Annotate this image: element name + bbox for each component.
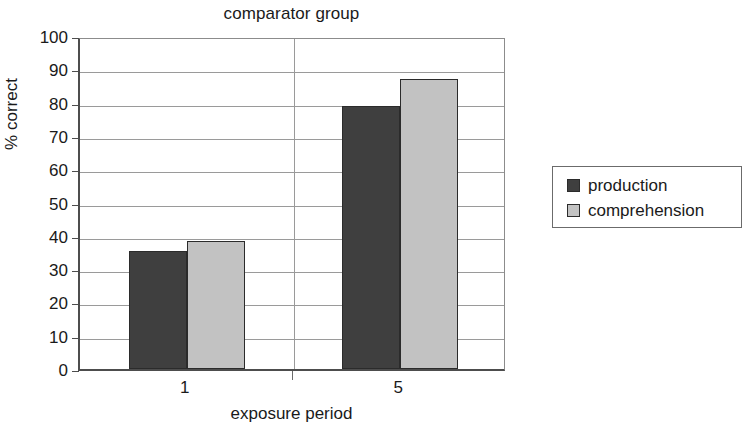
y-axis-tick-mark: [72, 238, 79, 239]
y-axis-tick-label: 70: [0, 129, 68, 146]
chart-title: comparator group: [78, 4, 505, 24]
y-axis-tick-mark: [72, 338, 79, 339]
y-axis-tick-label: 100: [0, 29, 68, 46]
y-axis-tick-mark: [72, 38, 79, 39]
y-axis-tick-mark: [72, 71, 79, 72]
bar-comprehension-5: [400, 79, 458, 369]
x-axis-tick-label: 1: [155, 378, 215, 398]
legend-swatch-comprehension-icon: [567, 204, 580, 217]
category-separator: [294, 39, 295, 369]
bar-production-1: [129, 251, 187, 369]
y-axis-tick-mark: [72, 271, 79, 272]
y-axis-tick-label: 60: [0, 162, 68, 179]
y-axis-tick-label: 10: [0, 329, 68, 346]
legend-label-comprehension: comprehension: [588, 202, 704, 219]
legend-swatch-production-icon: [567, 179, 580, 192]
y-axis-tick-mark: [72, 304, 79, 305]
y-axis-tick-label: 50: [0, 196, 68, 213]
y-axis-tick-label: 90: [0, 62, 68, 79]
x-axis-label: exposure period: [78, 404, 505, 424]
legend: production comprehension: [552, 166, 742, 228]
legend-label-production: production: [588, 177, 667, 194]
y-axis-tick-mark: [72, 138, 79, 139]
y-axis-tick-label: 80: [0, 96, 68, 113]
gridline: [80, 72, 504, 73]
legend-item-comprehension: comprehension: [567, 198, 741, 223]
bar-production-5: [342, 106, 400, 369]
y-axis-tick-mark: [72, 205, 79, 206]
y-axis-tick-mark: [72, 171, 79, 172]
x-axis-tick-label: 5: [368, 378, 428, 398]
plot-area: [78, 38, 505, 371]
y-axis-tick-label: 0: [0, 362, 68, 379]
legend-item-production: production: [567, 173, 741, 198]
bar-comprehension-1: [187, 241, 245, 369]
y-axis-tick-label: 40: [0, 229, 68, 246]
x-axis-mid-tick: [292, 371, 293, 380]
y-axis-tick-label: 20: [0, 295, 68, 312]
y-axis-tick-mark: [72, 105, 79, 106]
y-axis-tick-mark: [72, 371, 79, 372]
y-axis-tick-label: 30: [0, 262, 68, 279]
